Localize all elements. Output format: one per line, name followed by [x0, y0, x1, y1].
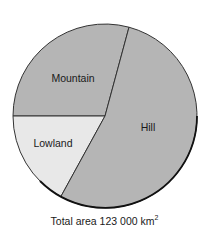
caption-superscript: 2: [155, 214, 159, 221]
caption-text: Total area 123 000 km: [51, 215, 155, 227]
label-lowland: Lowland: [33, 137, 72, 149]
chart-caption: Total area 123 000 km2: [0, 214, 209, 227]
label-mountain: Mountain: [51, 72, 94, 84]
label-hill: Hill: [141, 121, 156, 133]
pie-chart: Mountain Lowland Hill: [0, 0, 209, 230]
